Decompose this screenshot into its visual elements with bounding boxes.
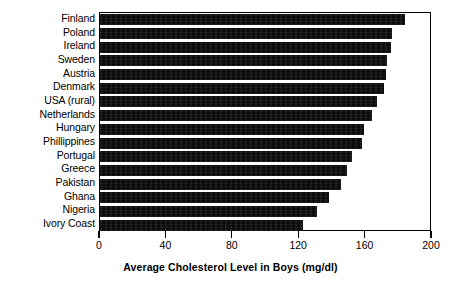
y-axis-label: Pakistan	[0, 177, 95, 188]
bar-series	[100, 13, 430, 230]
y-axis-label: Sweden	[0, 54, 95, 65]
y-axis-label: Poland	[0, 27, 95, 38]
x-axis-tick-label: 0	[96, 239, 102, 252]
y-axis-label: Ireland	[0, 40, 95, 51]
x-axis-tick-label: 200	[422, 239, 440, 252]
y-axis-label: Portugal	[0, 150, 95, 161]
y-axis-label: Greece	[0, 163, 95, 174]
x-axis-tick-marks	[99, 231, 431, 239]
bar	[100, 110, 372, 121]
bar	[100, 151, 352, 162]
y-axis-label: Hungary	[0, 122, 95, 133]
x-axis-tick	[364, 231, 365, 238]
y-axis-label: Finland	[0, 13, 95, 24]
y-axis-label: USA (rural)	[0, 95, 95, 106]
x-axis-tick-label: 80	[226, 239, 238, 252]
x-axis-tick	[430, 231, 431, 238]
y-axis-label: Denmark	[0, 81, 95, 92]
y-axis-label: Phillippines	[0, 136, 95, 147]
bar	[100, 165, 347, 176]
bar	[100, 206, 317, 217]
x-axis-tick	[231, 231, 232, 238]
bar	[100, 69, 386, 80]
bar-chart: FinlandPolandIrelandSwedenAustriaDenmark…	[0, 0, 461, 294]
bar	[100, 83, 384, 94]
y-axis-category-labels: FinlandPolandIrelandSwedenAustriaDenmark…	[0, 12, 95, 231]
x-axis-title: Average Cholesterol Level in Boys (mg/dl…	[0, 261, 461, 273]
y-axis-label: Netherlands	[0, 109, 95, 120]
y-axis-label: Ivory Coast	[0, 218, 95, 229]
x-axis-tick	[298, 231, 299, 238]
bar	[100, 179, 341, 190]
y-axis-label: Austria	[0, 68, 95, 79]
x-axis-tick-label: 160	[356, 239, 374, 252]
bar	[100, 220, 303, 231]
bar	[100, 55, 387, 66]
x-axis-tick	[98, 231, 99, 238]
plot-area	[99, 12, 431, 231]
y-axis-label: Nigeria	[0, 204, 95, 215]
bar	[100, 14, 405, 25]
bar	[100, 28, 392, 39]
bar	[100, 42, 391, 53]
bar	[100, 138, 362, 149]
y-axis-label: Ghana	[0, 191, 95, 202]
x-axis-tick-label: 120	[289, 239, 307, 252]
x-axis-tick	[165, 231, 166, 238]
x-axis-tick-label: 40	[160, 239, 172, 252]
bar	[100, 192, 329, 203]
bar	[100, 96, 377, 107]
x-axis-tick-labels: 04080120160200	[99, 239, 431, 255]
bar	[100, 124, 364, 135]
